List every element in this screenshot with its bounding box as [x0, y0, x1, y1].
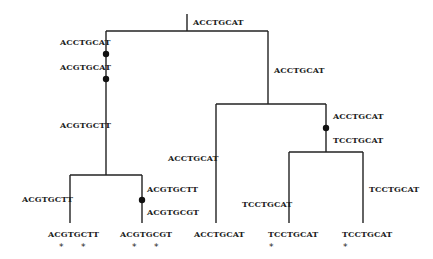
branch-label: ACGTGCTT	[146, 184, 198, 194]
leaf-label: ACCTGCAT	[193, 229, 245, 239]
phylogenetic-tree: ACCTGCAT ACCTGCAT ACGTGCAT ACGTGCTT ACGT…	[0, 0, 433, 259]
mutation-dot	[103, 76, 109, 82]
mutation-dot	[103, 51, 109, 57]
root-label: ACCTGCAT	[192, 17, 244, 27]
leaf-label: TCCTGCAT	[342, 229, 392, 239]
branch-label: ACGTGCAT	[59, 62, 111, 72]
branch-label: ACGTGCTT	[59, 120, 111, 130]
branch-label: ACCTGCAT	[332, 111, 384, 121]
branch-label: ACGTGCTT	[21, 194, 73, 204]
branch-label: ACGTGCGT	[146, 207, 199, 217]
branch-label: TCCTGCAT	[333, 135, 383, 145]
star-marker: *	[59, 242, 64, 252]
branch-label: ACCTGCAT	[167, 153, 219, 163]
star-marker: *	[154, 242, 159, 252]
leaf-label: TCCTGCAT	[268, 229, 318, 239]
branch-label: TCCTGCAT	[369, 184, 419, 194]
branch-label: ACCTGCAT	[273, 65, 325, 75]
leaf-label: ACGTGCTT	[47, 229, 99, 239]
star-marker: *	[269, 242, 274, 252]
star-marker: *	[132, 242, 137, 252]
star-marker: *	[343, 242, 348, 252]
mutation-dot	[139, 197, 145, 203]
branch-label: TCCTGCAT	[242, 199, 292, 209]
star-marker: *	[81, 242, 86, 252]
branch-label: ACCTGCAT	[59, 37, 111, 47]
mutation-dot	[323, 125, 329, 131]
leaf-label: ACGTGCGT	[119, 229, 172, 239]
